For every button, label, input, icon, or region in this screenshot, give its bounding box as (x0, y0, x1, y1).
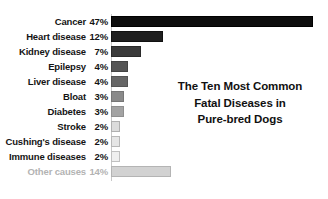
bar-value-label: 47% (86, 17, 111, 27)
bar (111, 61, 128, 72)
bar-value-label: 4% (86, 62, 111, 72)
bar-category-label: Kidney disease (0, 47, 86, 57)
bar-category-label: Epilepsy (0, 62, 86, 72)
bar-value-label: 12% (86, 32, 111, 42)
bar-category-label: Cancer (0, 17, 86, 27)
bar-row: Kidney disease7% (0, 44, 328, 59)
bar-track (111, 14, 328, 29)
bar-value-label: 2% (86, 152, 111, 162)
bar-track (111, 29, 328, 44)
bar-row: Epilepsy4% (0, 59, 328, 74)
bar-value-label: 3% (86, 107, 111, 117)
bar-category-label: Bloat (0, 92, 86, 102)
bar-category-label: Other causes (0, 167, 86, 177)
bar (111, 46, 141, 57)
bar-value-label: 2% (86, 137, 111, 147)
chart-title-line: Pure-bred Dogs (160, 111, 320, 128)
bar-row: Immune diseases2% (0, 149, 328, 164)
bar (111, 166, 171, 177)
bar-row: Cancer47% (0, 14, 328, 29)
bar-category-label: Heart disease (0, 32, 86, 42)
bar-chart: Cancer47%Heart disease12%Kidney disease7… (0, 0, 328, 199)
bar-category-label: Liver disease (0, 77, 86, 87)
bar-value-label: 2% (86, 122, 111, 132)
bar-track (111, 44, 328, 59)
bar-value-label: 7% (86, 47, 111, 57)
bar-track (111, 149, 328, 164)
bar-row: Heart disease12% (0, 29, 328, 44)
bar (111, 151, 120, 162)
bar-category-label: Diabetes (0, 107, 86, 117)
bar (111, 76, 128, 87)
bar-category-label: Cushing's disease (0, 137, 86, 147)
bar (111, 121, 120, 132)
bar-track (111, 134, 328, 149)
bar-category-label: Immune diseases (0, 152, 86, 162)
chart-title-line: The Ten Most Common (160, 78, 320, 95)
bar (111, 16, 313, 27)
bar-track (111, 164, 328, 179)
bar (111, 91, 124, 102)
bar-value-label: 3% (86, 92, 111, 102)
bar-row: Other causes14% (0, 164, 328, 179)
bar (111, 31, 163, 42)
bar-category-label: Stroke (0, 122, 86, 132)
chart-title-line: Fatal Diseases in (160, 95, 320, 112)
chart-title: The Ten Most CommonFatal Diseases inPure… (160, 78, 320, 128)
bar-track (111, 59, 328, 74)
bar (111, 136, 120, 147)
bar-value-label: 4% (86, 77, 111, 87)
bar-row: Cushing's disease2% (0, 134, 328, 149)
bar (111, 106, 124, 117)
bar-value-label: 14% (86, 167, 111, 177)
